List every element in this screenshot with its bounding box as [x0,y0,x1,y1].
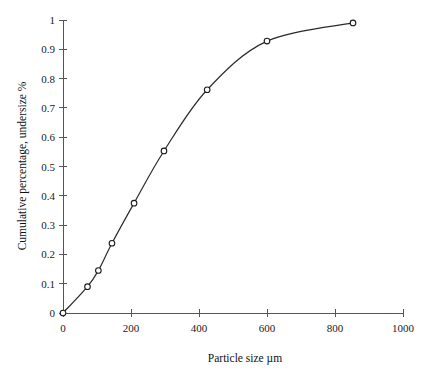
x-axis-tick-label: 800 [327,322,344,334]
y-axis-tick-label: 0.4 [41,190,55,202]
y-axis-tick-label: 0.2 [41,248,55,260]
data-point-marker: 72, 0.09 [85,284,91,290]
y-axis-tick-label: 1 [50,14,56,26]
data-series-path [63,23,353,313]
y-axis-tick-label: 0 [50,307,56,319]
x-axis-tick-label: 600 [259,322,276,334]
data-point-marker: 209, 0.375 [131,200,137,206]
data-point-marker: 297, 0.553 [161,148,167,154]
tick-marks-group [59,20,403,317]
chart-plot-area: 00.10.20.30.40.50.60.70.80.9102004006008… [0,0,427,381]
y-axis-tick-label: 0.8 [41,73,55,85]
y-axis-tick-label: 0.5 [41,161,55,173]
x-axis-tick-label: 1000 [392,322,415,334]
data-point-marker: 600, 0.928 [264,38,270,44]
y-axis-title: Cumulative percentage, undersize % [16,81,29,250]
chart-figure: 00.10.20.30.40.50.60.70.80.9102004006008… [0,0,427,381]
y-axis-tick-label: 0.3 [41,219,55,231]
tick-labels-group: 00.10.20.30.40.50.60.70.80.9102004006008… [41,14,414,334]
data-point-marker: 853, 0.99 [350,20,356,26]
data-series-line [63,23,353,313]
data-series-markers: 0, 072, 0.09104, 0.145144, 0.238209, 0.3… [60,20,356,316]
data-point-marker: 0, 0 [60,310,66,316]
y-axis-tick-label: 0.7 [41,102,55,114]
data-point-marker: 144, 0.238 [109,240,115,246]
x-axis-title: Particle size µm [208,352,282,365]
data-point-marker: 424, 0.762 [204,87,210,93]
y-axis-tick-label: 0.9 [41,43,55,55]
y-axis-tick-label: 0.6 [41,131,55,143]
x-axis-tick-label: 200 [123,322,140,334]
data-point-marker: 104, 0.145 [96,268,102,274]
y-axis-tick-label: 0.1 [41,278,55,290]
x-axis-tick-label: 400 [191,322,208,334]
x-axis-tick-label: 0 [60,322,66,334]
